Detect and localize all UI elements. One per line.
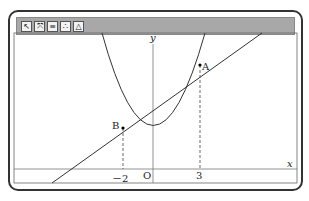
point-b-marker <box>121 126 124 129</box>
y-axis-label: y <box>150 32 156 43</box>
graph-canvas[interactable] <box>0 0 309 201</box>
point-a-label: A <box>202 61 209 72</box>
tick-label-neg2: －2 <box>112 170 128 185</box>
point-b-label: B <box>112 120 119 131</box>
origin-label: O <box>143 170 151 181</box>
x-axis-label: x <box>287 158 293 169</box>
tick-label-3: 3 <box>196 170 202 181</box>
line-ab <box>52 33 262 183</box>
parabola-curve <box>102 33 205 126</box>
